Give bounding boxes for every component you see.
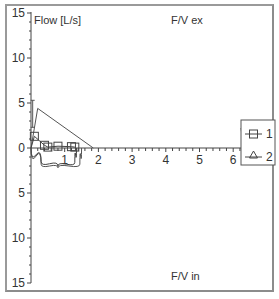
y-tick-label: 15 [12, 276, 26, 290]
x-tick-label: 4 [162, 153, 169, 167]
y-tick-label: 10 [12, 51, 26, 65]
legend-label-2: 2 [266, 150, 273, 164]
flow-volume-chart: 15105051015 123456 Flow [L/s] F/V ex F/V… [0, 0, 279, 299]
chart-title-inspiratory: F/V in [171, 270, 200, 282]
x-tick-label: 2 [95, 153, 102, 167]
y-tick-label: 10 [12, 231, 26, 245]
y-axis-label: Flow [L/s] [34, 14, 81, 26]
y-tick-label: 0 [18, 141, 25, 155]
legend-label-1: 1 [266, 127, 273, 141]
x-tick-label: 6 [230, 153, 237, 167]
x-tick-label: 1 [61, 153, 68, 167]
x-tick-label: 5 [196, 153, 203, 167]
chart-title-expiratory: F/V ex [171, 14, 203, 26]
y-tick-label: 5 [18, 96, 25, 110]
y-tick-label: 15 [12, 6, 26, 20]
x-tick-label: 3 [129, 153, 136, 167]
legend: 1 2 [241, 120, 275, 165]
y-tick-label: 5 [18, 186, 25, 200]
